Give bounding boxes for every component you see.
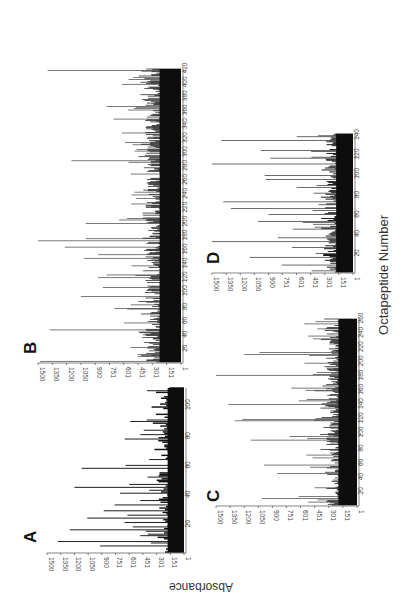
panel-label: B	[21, 342, 40, 354]
baseline-band	[160, 69, 181, 362]
bar	[216, 375, 357, 376]
absorbance-tick-label: 451	[144, 557, 151, 568]
absorbance-tick-label: 451	[312, 277, 319, 288]
figure-canvas: 1151301451601751900105012001350150020406…	[0, 0, 402, 611]
octapeptide-tick-label: 240	[357, 326, 364, 337]
octapeptide-tick-label: 200	[181, 215, 188, 226]
panel-label: D	[204, 252, 223, 264]
absorbance-tick-label: 151	[340, 277, 347, 288]
octapeptide-tick-label: 100	[184, 399, 191, 410]
octapeptide-tick-label: 140	[181, 257, 188, 268]
bar	[74, 487, 184, 488]
absorbance-tick-label: 1350	[231, 510, 238, 525]
panel-label: C	[204, 490, 223, 502]
absorbance-tick-label: 1350	[62, 557, 69, 572]
absorbance-tick-label: 451	[316, 510, 323, 521]
absorbance-tick-label: 751	[283, 277, 290, 288]
absorbance-tick-label: 151	[171, 557, 178, 568]
octapeptide-tick-label: 220	[181, 201, 188, 212]
octapeptide-tick-label: 140	[357, 398, 364, 409]
octapeptide-tick-label: 80	[357, 444, 364, 452]
absorbance-tick-label: 1050	[259, 510, 266, 525]
octapeptide-tick-label: 360	[181, 104, 188, 115]
absorbance-tick-label: 1200	[241, 277, 248, 292]
absorbance-tick-label: 601	[302, 510, 309, 521]
baseline-band	[336, 134, 353, 272]
absorbance-tick-label: 1200	[245, 510, 252, 525]
panel-d: 1151301451601751900105012001350150020406…	[204, 129, 361, 292]
absorbance-tick-label: 900	[269, 277, 276, 288]
absorbance-tick-label: 1500	[48, 557, 55, 572]
octapeptide-tick-label: 380	[181, 90, 188, 101]
octapeptide-tick-label: 60	[357, 458, 364, 466]
bar	[223, 202, 353, 203]
absorbance-tick-label: 900	[103, 557, 110, 568]
absorbance-tick-label: 301	[330, 510, 337, 521]
absorbance-tick-label: 1	[182, 367, 189, 371]
octapeptide-tick-label: 80	[353, 191, 360, 199]
absorbance-tick-label: 301	[158, 557, 165, 568]
bar	[58, 541, 184, 542]
absorbance-tick-label: 301	[326, 277, 333, 288]
absorbance-tick-label: 1200	[68, 367, 75, 382]
panel-a: 1151301451601751900105012001350150020406…	[21, 387, 192, 572]
baseline-band	[338, 319, 357, 505]
octapeptide-tick-label: 60	[353, 210, 360, 218]
octapeptide-tick-label: 240	[181, 187, 188, 198]
octapeptide-tick-label: 160	[357, 383, 364, 394]
octapeptide-tick-label: 120	[357, 412, 364, 423]
absorbance-tick-label: 1	[358, 510, 365, 514]
octapeptide-tick-label: 40	[181, 330, 188, 338]
absorbance-tick-label: 1200	[75, 557, 82, 572]
absorbance-tick-label: 1050	[89, 557, 96, 572]
bar	[212, 241, 353, 242]
octapeptide-tick-label: 80	[184, 432, 191, 440]
absorbance-tick-label: 151	[168, 367, 175, 378]
absorbance-tick-label: 900	[96, 367, 103, 378]
panel-c: 1151301451601751900105012001350150020406…	[204, 312, 365, 525]
bar	[38, 241, 181, 242]
absorbance-tick-label: 451	[139, 367, 146, 378]
absorbance-tick-label: 751	[287, 510, 294, 521]
x-axis-title: Octapeptide Number	[376, 214, 391, 335]
octapeptide-tick-label: 420	[181, 62, 188, 73]
octapeptide-tick-label: 120	[353, 148, 360, 159]
absorbance-tick-label: 1	[185, 557, 192, 561]
absorbance-tick-label: 900	[273, 510, 280, 521]
absorbance-tick-label: 1500	[213, 277, 220, 292]
bar	[70, 529, 184, 530]
bar	[228, 404, 357, 405]
absorbance-tick-label: 1050	[255, 277, 262, 292]
octapeptide-tick-label: 220	[357, 341, 364, 352]
octapeptide-tick-label: 100	[181, 285, 188, 296]
octapeptide-tick-label: 80	[181, 302, 188, 310]
absorbance-tick-label: 601	[130, 557, 137, 568]
octapeptide-tick-label: 60	[184, 461, 191, 469]
octapeptide-tick-label: 120	[181, 271, 188, 282]
panel-label: A	[21, 531, 40, 543]
octapeptide-tick-label: 260	[181, 174, 188, 185]
baseline-band	[168, 388, 184, 552]
octapeptide-tick-label: 340	[181, 118, 188, 129]
absorbance-tick-label: 1500	[39, 367, 46, 382]
octapeptide-tick-label: 280	[181, 160, 188, 171]
absorbance-tick-label: 751	[116, 557, 123, 568]
octapeptide-tick-label: 100	[357, 426, 364, 437]
absorbance-tick-label: 1500	[217, 510, 224, 525]
octapeptide-tick-label: 60	[181, 316, 188, 324]
octapeptide-tick-label: 300	[181, 146, 188, 157]
octapeptide-tick-label: 20	[357, 487, 364, 495]
absorbance-tick-label: 601	[298, 277, 305, 288]
octapeptide-tick-label: 100	[353, 168, 360, 179]
absorbance-tick-label: 301	[153, 367, 160, 378]
y-axis-title: Absorbance	[169, 580, 233, 594]
absorbance-tick-label: 601	[125, 367, 132, 378]
octapeptide-tick-label: 180	[181, 229, 188, 240]
absorbance-tick-label: 1350	[53, 367, 60, 382]
octapeptide-tick-label: 400	[181, 76, 188, 87]
octapeptide-tick-label: 260	[357, 312, 364, 323]
octapeptide-tick-label: 200	[357, 355, 364, 366]
octapeptide-tick-label: 20	[184, 520, 191, 528]
octapeptide-tick-label: 320	[181, 132, 188, 143]
octapeptide-tick-label: 40	[357, 473, 364, 481]
